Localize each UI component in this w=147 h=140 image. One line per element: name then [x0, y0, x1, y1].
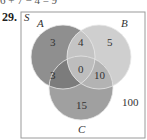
region-abc-value: 0 [78, 63, 84, 75]
venn-diagram: S A B C 3 4 5 0 3 10 15 100 [0, 0, 147, 140]
region-ac-value: 3 [50, 69, 56, 81]
region-ab-value: 4 [78, 36, 84, 48]
universe-label: S [24, 11, 30, 23]
region-a-only-value: 3 [50, 36, 56, 48]
set-c-label: C [78, 123, 86, 135]
outside-value: 100 [122, 96, 139, 108]
set-b-label: B [121, 17, 128, 29]
region-b-only-value: 5 [107, 36, 113, 48]
region-c-only-value: 15 [76, 99, 88, 111]
set-a-label: A [36, 17, 44, 29]
region-bc-value: 10 [94, 69, 106, 81]
